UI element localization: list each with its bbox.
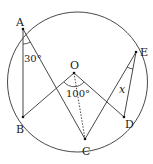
circle — [8, 12, 148, 152]
angle-label-bac: 30° — [24, 53, 42, 64]
diagram-canvas: A B C D E O 30° 100° x — [0, 0, 153, 164]
label-e: E — [140, 46, 148, 59]
point-e — [135, 51, 138, 54]
point-c — [84, 138, 87, 141]
point-b — [22, 116, 25, 119]
point-o — [73, 72, 76, 75]
angle-label-bod: 100° — [66, 88, 90, 99]
label-d: D — [125, 118, 134, 131]
angle-arc-a — [23, 42, 31, 44]
angle-label-ced: x — [119, 83, 126, 96]
label-a: A — [15, 16, 25, 29]
geometry-diagram: A B C D E O 30° 100° x — [0, 0, 153, 164]
angle-arc-o — [64, 82, 84, 87]
label-c: C — [82, 145, 90, 158]
angle-arc-e — [127, 67, 133, 69]
label-b: B — [16, 123, 24, 136]
label-o: O — [70, 59, 79, 72]
segment-ac — [23, 29, 85, 139]
